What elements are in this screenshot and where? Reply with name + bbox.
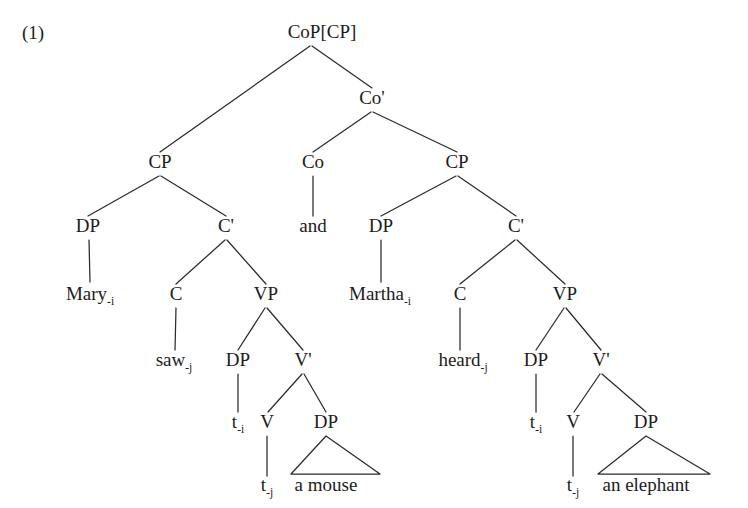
tree-branch-coprime-to-co-head (313, 112, 371, 152)
tree-node-cp-right: CP (445, 151, 468, 172)
figure-canvas: (1) CoP[CP]Co'CPCoCPDPC'andDPC'Mary-iCVP… (0, 0, 748, 508)
tree-node-a-mouse: a mouse (295, 474, 358, 495)
node-text: DP (226, 349, 250, 370)
tree-branch-vp-right-to-vbar-right (566, 308, 601, 350)
tree-branch-cbar-right-to-c-right (460, 240, 515, 284)
tree-branch-cbar-left-to-vp-left (227, 240, 266, 284)
tree-branch-vbar-right-to-dp-comp-right (602, 374, 646, 412)
tree-branch-cbar-left-to-c-left (176, 240, 225, 284)
node-text: V' (592, 349, 609, 370)
node-text: CP (148, 151, 171, 172)
node-text: Mary (66, 283, 108, 304)
node-text: DP (369, 215, 393, 236)
tree-branch-cp-right-to-cbar-right (458, 176, 516, 216)
tree-branch-vbar-right-to-v-right (574, 374, 600, 412)
tree-branch-cp-left-to-dp-left (88, 176, 159, 216)
tree-node-trace-i-right: t-i (530, 411, 542, 435)
node-subscript: -i (404, 295, 411, 307)
tree-node-dp-obj-left: DP (226, 349, 250, 370)
tree-branch-root-to-coprime (312, 46, 372, 88)
tree-branch-vp-left-to-vbar-left (267, 308, 303, 350)
node-text: C (170, 283, 183, 304)
tree-node-trace-i-left: t-i (232, 411, 244, 435)
tree-branch-cbar-right-to-vp-right (517, 240, 565, 284)
phrase-triangle-dp-comp-left (291, 436, 380, 474)
tree-node-root: CoP[CP] (288, 21, 357, 42)
tree-node-c-left: C (170, 283, 183, 304)
node-label-layer: CoP[CP]Co'CPCoCPDPC'andDPC'Mary-iCVPMart… (66, 21, 690, 499)
node-subscript: -j (481, 361, 488, 374)
tree-node-mary: Mary-i (66, 283, 114, 307)
node-text: C' (218, 215, 234, 236)
triangle-layer (291, 436, 710, 474)
tree-branch-cp-left-to-cbar-left (161, 176, 226, 216)
tree-node-trace-j-right: t-j (567, 474, 579, 499)
tree-node-dp-comp-left: DP (314, 411, 338, 432)
node-subscript: -j (266, 486, 273, 499)
node-subscript: -i (107, 295, 114, 307)
node-subscript: -i (237, 423, 244, 435)
tree-branch-c-left-to-saw (175, 308, 176, 350)
tree-node-heard: heard-j (438, 349, 487, 374)
node-text: CP (445, 151, 468, 172)
node-text: V (260, 411, 274, 432)
phrase-triangle-dp-comp-right (598, 436, 710, 474)
tree-node-an-elephant: an elephant (602, 474, 690, 495)
tree-node-vp-right: VP (553, 283, 577, 304)
tree-branch-cp-right-to-dp-right (381, 176, 456, 216)
branch-layer (88, 46, 646, 476)
tree-node-dp-obj-right: DP (524, 349, 548, 370)
tree-branch-dp-left-to-mary (89, 240, 90, 282)
tree-node-v-left: V (260, 411, 274, 432)
tree-node-cbar-right: C' (508, 215, 524, 236)
node-subscript: -j (572, 486, 579, 499)
tree-node-cp-left: CP (148, 151, 171, 172)
tree-node-co-head: Co (302, 151, 324, 172)
node-text: saw (156, 349, 186, 370)
node-text: Co (302, 151, 324, 172)
tree-node-vbar-right: V' (592, 349, 609, 370)
node-text: heard (438, 349, 481, 370)
node-subscript: -i (535, 423, 542, 435)
tree-branch-vp-left-to-dp-obj-left (238, 308, 265, 350)
node-text: V (566, 411, 580, 432)
tree-node-vp-left: VP (254, 283, 278, 304)
node-text: DP (524, 349, 548, 370)
tree-node-dp-left: DP (76, 215, 100, 236)
syntax-tree-diagram: CoP[CP]Co'CPCoCPDPC'andDPC'Mary-iCVPMart… (0, 0, 748, 508)
tree-branch-vp-right-to-dp-obj-right (536, 308, 564, 350)
tree-branch-coprime-to-cp-right (373, 112, 457, 152)
tree-branch-root-to-cp-left (160, 46, 310, 152)
node-text: V' (294, 349, 311, 370)
node-text: DP (314, 411, 338, 432)
node-text: Co' (359, 87, 385, 108)
node-text: a mouse (295, 474, 358, 495)
node-text: DP (634, 411, 658, 432)
tree-node-dp-comp-right: DP (634, 411, 658, 432)
tree-node-cbar-left: C' (218, 215, 234, 236)
node-text: VP (254, 283, 278, 304)
tree-branch-vbar-left-to-v-left (268, 374, 302, 412)
node-text: CoP[CP] (288, 21, 357, 42)
node-text: Martha (349, 283, 404, 304)
tree-node-vbar-left: V' (294, 349, 311, 370)
tree-node-and: and (299, 215, 327, 236)
tree-node-c-right: C (454, 283, 467, 304)
tree-node-saw: saw-j (156, 349, 193, 374)
tree-node-v-right: V (566, 411, 580, 432)
node-text: an elephant (602, 474, 690, 495)
node-text: C (454, 283, 467, 304)
tree-node-trace-j-left: t-j (261, 474, 273, 499)
node-text: DP (76, 215, 100, 236)
tree-node-coprime: Co' (359, 87, 385, 108)
node-text: C' (508, 215, 524, 236)
node-subscript: -j (185, 361, 192, 374)
node-text: and (299, 215, 327, 236)
node-text: VP (553, 283, 577, 304)
tree-node-martha: Martha-i (349, 283, 411, 307)
tree-branch-vbar-left-to-dp-comp-left (304, 374, 326, 412)
tree-node-dp-right: DP (369, 215, 393, 236)
